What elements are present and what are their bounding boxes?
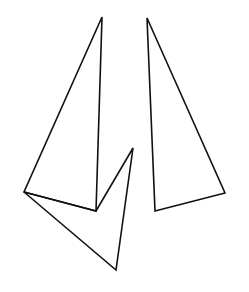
left-tall-triangle-shape: [24, 17, 102, 211]
diagram-canvas: [0, 0, 249, 292]
lower-arrow-triangle-shape: [24, 148, 133, 270]
right-tall-triangle-shape: [147, 18, 225, 211]
